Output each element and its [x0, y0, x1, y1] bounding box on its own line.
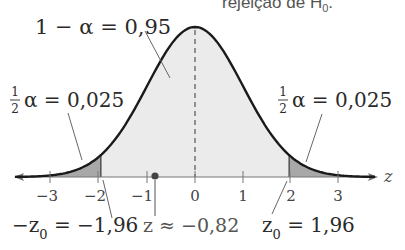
- tick-label: −2: [84, 187, 106, 205]
- tick-label: 0: [190, 187, 200, 205]
- tick-label: 3: [333, 187, 343, 205]
- test-statistic-point: [151, 172, 158, 179]
- neg-critical-value-label: −z0 = −1,96: [12, 213, 138, 242]
- svg-text:1: 1: [11, 85, 19, 99]
- right-tail-leader: [306, 114, 322, 162]
- pos-critical-value-label: z0 = 1,96: [262, 213, 355, 242]
- tick-label: 1: [238, 187, 248, 205]
- right-tail-label: 1 2 α = 0,025: [278, 85, 392, 116]
- left-tail-leader: [68, 113, 82, 160]
- svg-text:α = 0,025: α = 0,025: [292, 88, 392, 112]
- svg-text:1: 1: [279, 85, 287, 99]
- tick-label: −3: [36, 187, 58, 205]
- svg-text:α = 0,025: α = 0,025: [24, 88, 124, 112]
- pos-critical-leader: [272, 181, 287, 214]
- left-tail-label: 1 2 α = 0,025: [10, 85, 124, 116]
- center-area-label: 1 − α = 0,95: [35, 15, 171, 39]
- tick-labels: −3 −2 −1 0 1 2 3: [36, 187, 343, 205]
- tick-label: 2: [286, 187, 296, 205]
- caption-fragment: rejeição de H0.: [222, 0, 333, 14]
- tick-label: −1: [131, 187, 153, 205]
- normal-distribution-diagram: rejeição de H0. z −3 −2 −1 0 1 2 3: [0, 0, 405, 250]
- svg-text:2: 2: [11, 102, 19, 116]
- test-statistic-label: z ≈ −0,82: [143, 214, 239, 236]
- axis-variable-label: z: [383, 167, 393, 186]
- svg-text:2: 2: [279, 102, 287, 116]
